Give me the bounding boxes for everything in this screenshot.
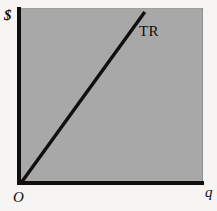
- curve-layer: [0, 0, 217, 211]
- origin-label: O: [13, 190, 24, 205]
- figure-container: $ O q TR: [0, 0, 217, 211]
- tr-line: [21, 12, 145, 183]
- x-axis-label: q: [205, 185, 213, 200]
- y-axis-label: $: [4, 8, 12, 23]
- tr-curve-label: TR: [139, 24, 159, 39]
